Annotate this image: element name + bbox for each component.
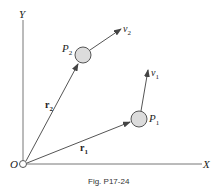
r1-label: r1 bbox=[80, 143, 88, 156]
particle-p1 bbox=[131, 111, 147, 127]
r2-label: r2 bbox=[45, 100, 53, 113]
v2-label: v2 bbox=[123, 24, 131, 37]
p2-label: P2 bbox=[62, 43, 72, 57]
x-axis-label: X bbox=[203, 159, 210, 170]
figure-caption: Fig. P17-24 bbox=[88, 177, 129, 186]
diagram-canvas bbox=[0, 0, 222, 191]
v2-vector bbox=[90, 29, 121, 50]
origin-label: O bbox=[10, 159, 18, 170]
p1-label: P1 bbox=[149, 113, 159, 127]
origin-marker bbox=[20, 161, 27, 168]
v1-vector bbox=[141, 70, 148, 111]
v1-label: v1 bbox=[151, 68, 159, 81]
particle-p2 bbox=[75, 47, 91, 63]
y-axis-label: Y bbox=[19, 9, 25, 20]
r1-vector bbox=[27, 122, 130, 163]
